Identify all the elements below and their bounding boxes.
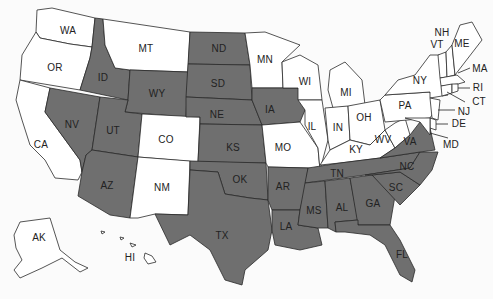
label-id: ID [98, 73, 108, 83]
label-vt: VT [430, 40, 443, 50]
label-al: AL [336, 203, 349, 213]
state-de[interactable] [430, 118, 436, 130]
label-va: VA [404, 137, 417, 147]
label-nh: NH [435, 28, 450, 38]
label-nj: NJ [458, 107, 471, 117]
label-md: MD [443, 140, 459, 150]
label-la: LA [280, 222, 293, 232]
label-mn: MN [257, 55, 273, 65]
label-ky: KY [349, 145, 363, 155]
state-vt[interactable] [438, 52, 447, 78]
label-mt: MT [139, 44, 154, 54]
label-tn: TN [330, 169, 344, 179]
label-nc: NC [400, 162, 415, 172]
label-ny: NY [413, 76, 427, 86]
label-me: ME [454, 39, 469, 49]
label-ak: AK [32, 233, 46, 243]
label-az: AZ [100, 181, 113, 191]
label-sc: SC [389, 183, 403, 193]
label-wa: WA [60, 26, 76, 36]
label-ia: IA [265, 105, 275, 115]
label-mi: MI [340, 88, 352, 98]
label-ga: GA [366, 199, 381, 209]
label-oh: OH [356, 113, 371, 123]
label-co: CO [158, 135, 173, 145]
label-wi: WI [299, 77, 312, 87]
label-il: IL [308, 122, 317, 132]
label-ms: MS [306, 206, 321, 216]
label-wv: WV [375, 135, 392, 145]
label-ct: CT [472, 97, 486, 107]
label-ri: RI [473, 83, 483, 93]
label-tx: TX [215, 231, 228, 241]
label-nm: NM [154, 183, 170, 193]
label-ar: AR [276, 182, 290, 192]
label-de: DE [452, 119, 466, 129]
label-pa: PA [399, 101, 412, 111]
state-ri[interactable] [452, 84, 458, 93]
label-mo: MO [275, 143, 292, 153]
label-ks: KS [226, 143, 240, 153]
label-ok: OK [233, 175, 248, 185]
label-ne: NE [210, 110, 224, 120]
label-nv: NV [65, 120, 79, 130]
label-ca: CA [34, 140, 48, 150]
state-mi[interactable] [328, 62, 365, 108]
label-sd: SD [211, 79, 225, 89]
state-ia[interactable] [252, 88, 305, 125]
state-ak[interactable] [14, 218, 88, 278]
state-nj[interactable] [430, 98, 440, 120]
label-nd: ND [212, 44, 227, 54]
label-wy: WY [149, 89, 166, 99]
label-in: IN [333, 123, 343, 133]
label-fl: FL [396, 250, 408, 260]
label-ma: MA [472, 64, 487, 74]
us-states-map [0, 0, 493, 299]
label-ut: UT [106, 126, 120, 136]
label-hi: HI [125, 253, 135, 263]
label-or: OR [47, 63, 62, 73]
